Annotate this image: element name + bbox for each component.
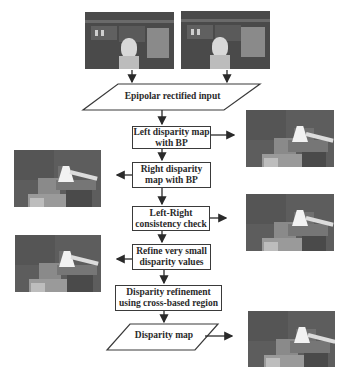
node-label-line2: disparity values (136, 257, 207, 268)
node-label-line1: Right disparity (141, 164, 203, 175)
right-disparity-result (14, 150, 101, 207)
node-label-line2: consistency check (135, 219, 207, 230)
lr-check-result (246, 194, 334, 251)
node-label-line1: Left disparity map (134, 127, 210, 138)
refine-small-node: Refine very smalldisparity values (132, 244, 211, 270)
right-stereo-photo (181, 11, 270, 69)
left-disparity-result (246, 110, 334, 167)
node-label-line2: map with BP (141, 175, 203, 186)
node-label-line2: with BP (134, 138, 210, 149)
right-disparity-bp-node: Right disparitymap with BP (132, 162, 211, 188)
node-label-line1: Refine very small (136, 246, 207, 257)
input-node-label: Epipolar rectified input (100, 91, 245, 101)
left-disparity-bp-node: Left disparity mapwith BP (132, 126, 211, 149)
left-stereo-photo (85, 12, 174, 69)
final-disparity-result (248, 311, 335, 367)
output-node-label: Disparity map (120, 330, 208, 340)
refine-small-result (15, 235, 101, 292)
lr-consistency-node: Left-Rightconsistency check (132, 206, 210, 231)
node-label-line2: using cross-based region (119, 298, 218, 309)
node-label-line1: Left-Right (135, 208, 207, 219)
node-label-line1: Disparity refinement (119, 287, 218, 298)
cross-refine-node: Disparity refinementusing cross-based re… (115, 285, 222, 311)
